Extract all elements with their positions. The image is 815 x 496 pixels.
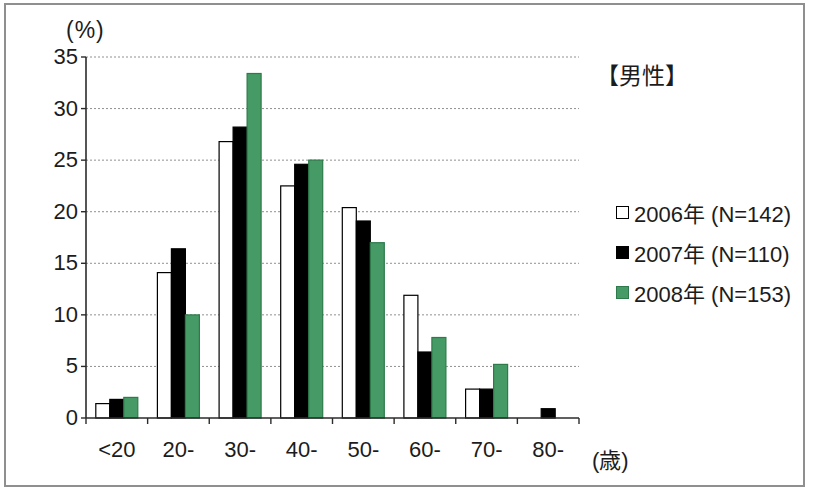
bar-50--series0 — [342, 208, 356, 418]
bar-60--series2 — [432, 338, 446, 419]
x-tick-label-80-: 80- — [516, 437, 580, 463]
bar-50--series2 — [370, 243, 384, 418]
bar-40--series1 — [295, 164, 309, 418]
bar-70--series1 — [480, 389, 494, 418]
bar-80--series1 — [541, 409, 555, 418]
legend-swatch-2006-icon — [616, 206, 629, 219]
bar-60--series1 — [418, 352, 432, 418]
bar-30--series2 — [247, 74, 261, 419]
bar-<20-series1 — [110, 399, 124, 418]
y-tick-label-0: 0 — [34, 406, 78, 430]
y-tick-label-10: 10 — [34, 303, 78, 327]
bar-<20-series0 — [96, 404, 110, 418]
y-tick-label-15: 15 — [34, 251, 78, 275]
y-tick-label-35: 35 — [34, 45, 78, 69]
y-axis-unit-label: (%) — [66, 17, 105, 44]
x-axis-unit-label: (歳) — [592, 442, 629, 474]
x-tick-label-70-: 70- — [455, 437, 519, 463]
y-tick-label-5: 5 — [34, 354, 78, 378]
x-tick-label-60-: 60- — [393, 437, 457, 463]
bar-40--series0 — [281, 186, 295, 418]
legend-item-2007: 2007年 (N=110) — [616, 240, 791, 264]
bar-60--series0 — [404, 295, 418, 418]
x-tick-label-<20: <20 — [85, 437, 149, 463]
y-tick-label-20: 20 — [34, 200, 78, 224]
bar-70--series2 — [494, 364, 508, 418]
x-tick-label-20-: 20- — [146, 437, 210, 463]
x-tick-label-40-: 40- — [270, 437, 334, 463]
legend-label-2006: 2006年 (N=142) — [634, 196, 791, 228]
y-tick-label-30: 30 — [34, 97, 78, 121]
legend: 2006年 (N=142) 2007年 (N=110) 2008年 (N=153… — [616, 200, 791, 320]
x-tick-label-50-: 50- — [331, 437, 395, 463]
legend-label-2008: 2008年 (N=153) — [634, 276, 791, 308]
bar-30--series1 — [233, 127, 247, 418]
bar-50--series1 — [356, 221, 370, 418]
legend-item-2008: 2008年 (N=153) — [616, 280, 791, 304]
bar-20--series1 — [171, 249, 185, 418]
x-tick-label-30-: 30- — [208, 437, 272, 463]
legend-swatch-2008-icon — [616, 286, 629, 299]
bar-70--series0 — [466, 389, 480, 418]
bar-20--series2 — [185, 315, 199, 418]
bar-20--series0 — [157, 273, 171, 418]
bar-40--series2 — [309, 160, 323, 418]
chart-title: 【男性】 — [596, 57, 688, 91]
legend-label-2007: 2007年 (N=110) — [634, 236, 790, 268]
legend-item-2006: 2006年 (N=142) — [616, 200, 791, 224]
y-tick-label-25: 25 — [34, 148, 78, 172]
bar-30--series0 — [219, 142, 233, 418]
bar-<20-series2 — [124, 397, 138, 418]
legend-swatch-2007-icon — [616, 246, 629, 259]
chart-frame: (%) 05101520253035 <2020-30-40-50-60-70-… — [4, 3, 805, 487]
